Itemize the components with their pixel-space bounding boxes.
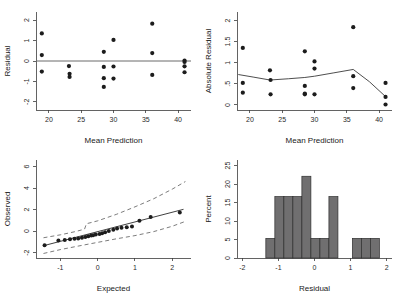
- absolute-residual-point: [351, 86, 355, 90]
- observed-point: [68, 237, 72, 241]
- observed-point: [103, 230, 107, 234]
- residual-point: [67, 75, 71, 79]
- observed-point: [107, 229, 111, 233]
- absolute-residual-vs-prediction-y-tick-label: .5: [224, 81, 231, 87]
- absolute-residual-vs-prediction-x-tick-label: 30: [311, 116, 319, 123]
- absolute-residual-point: [241, 46, 245, 50]
- absolute-residual-vs-prediction-x-tick-label: 40: [375, 116, 383, 123]
- histogram-bar: [361, 238, 370, 258]
- histogram-bar: [320, 238, 329, 258]
- residual-point: [182, 60, 186, 64]
- residual-vs-prediction-x-tick-label: 25: [77, 116, 85, 123]
- panel-normal-probability-plot: -1012-20246ExpectedObserved: [0, 148, 201, 296]
- absolute-residual-vs-prediction-y-tick-label: 2: [224, 18, 231, 22]
- normal-probability-plot-y-tick-label: 2: [23, 207, 30, 211]
- observed-point: [111, 228, 115, 232]
- residual-histogram-x-tick-label: 0: [313, 264, 317, 271]
- absolute-residual-vs-prediction-x-tick-label: 20: [246, 116, 254, 123]
- observed-point: [137, 219, 141, 223]
- normal-probability-plot-x-tick-label: 0: [96, 264, 100, 271]
- normal-probability-plot-y-tick-label: 6: [23, 164, 30, 168]
- absolute-residual-point: [383, 95, 387, 99]
- panel-residual-vs-prediction: 2025303540-2-1012Mean PredictionResidual: [0, 0, 201, 148]
- histogram-bar: [284, 197, 293, 258]
- histogram-bar: [293, 197, 302, 258]
- observed-point: [130, 225, 134, 229]
- residual-vs-prediction-x-tick-label: 20: [45, 116, 53, 123]
- histogram-bar: [275, 197, 284, 258]
- residual-point: [150, 73, 154, 77]
- absolute-residual-point: [268, 68, 272, 72]
- absolute-residual-vs-prediction-y-axis-label: Absolute Residual: [204, 29, 213, 94]
- absolute-residual-vs-prediction-y-tick-label: 1.5: [224, 37, 231, 47]
- absolute-residual-point: [303, 49, 307, 53]
- observed-point: [80, 236, 84, 240]
- lower-confidence-band: [43, 221, 185, 253]
- diagnostic-plot-figure: 2025303540-2-1012Mean PredictionResidual…: [0, 0, 402, 296]
- histogram-bar: [370, 238, 379, 258]
- histogram-bar: [302, 176, 311, 258]
- normal-probability-plot-y-tick-label: -2: [23, 249, 30, 255]
- observed-point: [76, 236, 80, 240]
- absolute-residual-point: [241, 91, 245, 95]
- absolute-residual-vs-prediction-x-axis-label: Mean Prediction: [286, 136, 344, 145]
- residual-vs-prediction-y-tick-label: 2: [23, 18, 30, 22]
- absolute-residual-point: [268, 92, 272, 96]
- observed-point: [56, 239, 60, 243]
- absolute-residual-vs-prediction-y-tick-label: 0: [224, 103, 231, 107]
- residual-point: [111, 64, 115, 68]
- residual-vs-prediction-x-tick-label: 35: [142, 116, 150, 123]
- residual-point: [40, 70, 44, 74]
- residual-point: [182, 70, 186, 74]
- absolute-residual-point: [351, 25, 355, 29]
- observed-point: [115, 226, 119, 230]
- residual-histogram-chart: -2-10120510152025ResidualPercent: [201, 148, 402, 296]
- residual-histogram-x-tick-label: -2: [239, 264, 245, 271]
- absolute-residual-vs-prediction-y-tick-label: 1: [224, 61, 231, 65]
- residual-histogram-y-axis-label: Percent: [204, 194, 213, 222]
- residual-vs-prediction-y-axis-label: Residual: [3, 45, 12, 76]
- absolute-residual-vs-prediction-chart: 20253035400.511.52Mean PredictionAbsolut…: [201, 0, 402, 148]
- observed-point: [94, 233, 98, 237]
- residual-histogram-x-tick-label: 2: [385, 264, 389, 271]
- absolute-residual-point: [241, 81, 245, 85]
- absolute-residual-point: [303, 84, 307, 88]
- residual-point: [102, 50, 106, 54]
- normal-probability-plot-y-tick-label: 4: [23, 186, 30, 190]
- residual-vs-prediction-chart: 2025303540-2-1012Mean PredictionResidual: [0, 0, 201, 148]
- residual-vs-prediction-y-tick-label: 1: [23, 39, 30, 43]
- absolute-residual-point: [351, 74, 355, 78]
- residual-point: [150, 22, 154, 26]
- normal-probability-plot-chart: -1012-20246ExpectedObserved: [0, 148, 201, 296]
- normal-probability-plot-x-axis-label: Expected: [97, 284, 130, 293]
- residual-vs-prediction-x-tick-label: 40: [174, 116, 182, 123]
- lowess-smooth-line: [238, 69, 387, 97]
- observed-point: [120, 226, 124, 230]
- residual-point: [111, 38, 115, 42]
- observed-point: [125, 225, 129, 229]
- absolute-residual-vs-prediction-x-tick-label: 35: [343, 116, 351, 123]
- absolute-residual-vs-prediction-x-tick-label: 25: [278, 116, 286, 123]
- absolute-residual-point: [312, 67, 316, 71]
- residual-point: [102, 76, 106, 80]
- residual-histogram-x-tick-label: 1: [349, 264, 353, 271]
- residual-vs-prediction-y-tick-label: -1: [23, 78, 30, 84]
- residual-histogram-y-tick-label: 25: [224, 162, 231, 170]
- residual-histogram-y-tick-label: 10: [224, 217, 231, 225]
- histogram-bar: [266, 238, 275, 258]
- absolute-residual-point: [268, 78, 272, 82]
- normal-probability-plot-y-axis-label: Observed: [3, 192, 12, 227]
- observed-point: [149, 215, 153, 219]
- residual-point: [67, 64, 71, 68]
- observed-point: [178, 211, 182, 215]
- residual-vs-prediction-x-axis-label: Mean Prediction: [85, 136, 143, 145]
- observed-point: [43, 243, 47, 247]
- normal-probability-plot-x-tick-label: 2: [170, 264, 174, 271]
- residual-histogram-x-tick-label: -1: [275, 264, 281, 271]
- residual-point: [40, 31, 44, 35]
- histogram-bar: [311, 238, 320, 258]
- residual-vs-prediction-y-tick-label: -2: [23, 99, 30, 105]
- absolute-residual-point: [383, 81, 387, 85]
- panel-residual-histogram: -2-10120510152025ResidualPercent: [201, 148, 402, 296]
- absolute-residual-point: [312, 92, 316, 96]
